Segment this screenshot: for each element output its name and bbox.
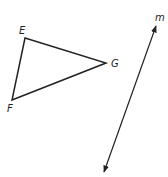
geometry-figure: E G F m <box>0 0 168 177</box>
vertex-label-E: E <box>19 25 26 36</box>
line-label-m: m <box>155 12 165 23</box>
triangle-EFG <box>12 38 106 100</box>
vertex-label-F: F <box>7 103 13 114</box>
vertex-label-G: G <box>111 58 119 69</box>
line-m <box>104 26 156 172</box>
